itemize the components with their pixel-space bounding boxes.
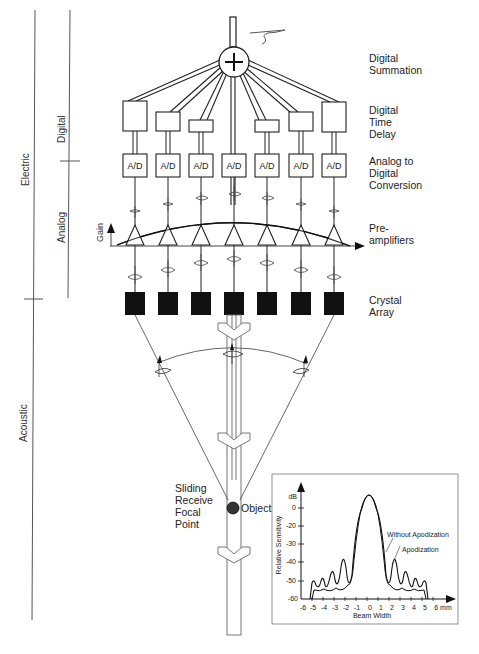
svg-text:-3: -3	[332, 604, 338, 611]
svg-text:4: 4	[412, 604, 416, 611]
svg-text:-2: -2	[343, 604, 349, 611]
svg-text:A/D: A/D	[160, 161, 176, 171]
beamforming-diagram: A/D A/D A/D A/D A/D A/D A/D	[0, 0, 479, 654]
output-waveform-icon	[250, 30, 285, 44]
summation-output	[230, 17, 236, 47]
svg-text:A/D: A/D	[127, 161, 143, 171]
label-digital-summation: Digital Summation	[369, 52, 422, 76]
beam-column	[227, 315, 241, 635]
preamplifiers	[126, 225, 343, 245]
svg-text:-50: -50	[286, 577, 296, 584]
svg-text:-1: -1	[354, 604, 360, 611]
domain-label-electric: Electric	[20, 153, 31, 186]
svg-text:6 mm: 6 mm	[434, 604, 452, 611]
svg-text:3: 3	[401, 604, 405, 611]
svg-text:5: 5	[423, 604, 427, 611]
svg-text:Apodization: Apodization	[402, 546, 439, 554]
label-crystal-array: Crystal Array	[369, 294, 402, 318]
crystal-array	[125, 292, 344, 315]
svg-text:A/D: A/D	[259, 161, 275, 171]
label-preamplifiers: Pre- amplifiers	[369, 222, 414, 246]
domain-brackets	[24, 10, 80, 620]
label-digital-time-delay: Digital Time Delay	[369, 104, 398, 140]
beam-profile-chart: dB 0 -20 -30 -40 -50 -60 -6 -5 -4 -3 -2 …	[272, 474, 458, 624]
svg-text:-20: -20	[286, 522, 296, 529]
svg-text:-5: -5	[310, 604, 316, 611]
svg-text:2: 2	[390, 604, 394, 611]
svg-text:-30: -30	[286, 540, 296, 547]
svg-text:-40: -40	[286, 558, 296, 565]
domain-label-digital: Digital	[56, 115, 67, 143]
ad-converters: A/D A/D A/D A/D A/D A/D A/D	[123, 154, 346, 177]
svg-text:Without Apodization: Without Apodization	[387, 531, 449, 539]
label-object: Object	[241, 502, 271, 514]
domain-label-acoustic: Acoustic	[18, 404, 29, 442]
label-ad-conversion: Analog to Digital Conversion	[369, 155, 422, 191]
svg-text:0: 0	[292, 504, 296, 511]
object-marker	[227, 502, 239, 514]
svg-text:-6: -6	[300, 604, 306, 611]
label-sliding-focal-point: Sliding Receive Focal Point	[175, 482, 213, 530]
svg-text:-4: -4	[321, 604, 327, 611]
svg-text:A/D: A/D	[226, 161, 242, 171]
svg-text:0: 0	[368, 604, 372, 611]
summation-node	[219, 47, 249, 77]
svg-text:A/D: A/D	[193, 161, 209, 171]
svg-text:A/D: A/D	[326, 161, 342, 171]
svg-text:Relative Sensitivity: Relative Sensitivity	[275, 515, 283, 574]
svg-text:A/D: A/D	[293, 161, 309, 171]
gain-label: Gain	[95, 223, 105, 242]
svg-text:dB: dB	[288, 493, 297, 500]
svg-text:-60: -60	[288, 595, 298, 602]
domain-label-analog: Analog	[56, 212, 67, 243]
svg-text:Beam Width: Beam Width	[353, 612, 391, 619]
svg-text:1: 1	[379, 604, 383, 611]
